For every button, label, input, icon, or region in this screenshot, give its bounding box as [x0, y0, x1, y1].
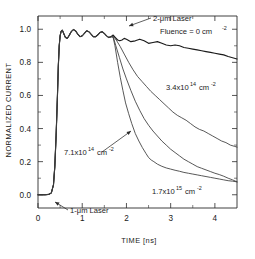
- fluence-zero-exponent: -2: [222, 25, 227, 31]
- fluence-3p4e14-exponent: 14: [190, 81, 196, 87]
- two-um-laser-label: 2-μm Laser: [153, 14, 192, 23]
- fluence-1p7e15-exponent: 15: [176, 185, 182, 191]
- y-axis-tick-label: 0.2: [20, 158, 32, 167]
- fluence-1p7e15-mantissa: 1.7x10: [152, 187, 175, 196]
- y-axis-tick-label: 0.6: [20, 91, 32, 100]
- one-um-laser-label: 1-μm Laser: [70, 206, 109, 215]
- x-axis-tick-label: 1: [80, 214, 85, 223]
- annotation-one-um-laser: 1-μm Laser: [70, 206, 109, 215]
- x-axis-tick-label: 2: [124, 214, 129, 223]
- y-axis-tick-label: 0.4: [20, 125, 32, 134]
- fluence-7p1e14-exponent: 14: [88, 146, 94, 152]
- fluence-3p4e14-unit-exponent: -2: [211, 81, 216, 87]
- data-curves: [38, 30, 237, 195]
- x-axis-tick-label: 4: [213, 214, 218, 223]
- annotation-fluence-zero: Fluence = 0 cm -2: [160, 25, 227, 36]
- annotation-two-um-laser: 2-μm Laser: [153, 14, 192, 23]
- y-axis-tick-label: 0.0: [20, 191, 32, 200]
- data-curve: [38, 30, 237, 195]
- annotation-fluence-1p7e15: 1.7x10 15 cm -2: [152, 185, 202, 196]
- one-um-laser-leader-arrowhead: [55, 202, 60, 206]
- x-axis-title: TIME [ns]: [121, 236, 157, 245]
- x-axis-tick-label: 0: [36, 214, 41, 223]
- fluence-3p4e14-mantissa: 3.4x10: [166, 83, 189, 92]
- annotation-fluence-3p4e14: 3.4x10 14 cm -2: [166, 81, 216, 92]
- figure-panel: 012340.00.20.40.60.81.0 NORMALIZED CURRE…: [0, 0, 255, 259]
- y-axis-title-text: NORMALIZED CURRENT: [4, 63, 13, 158]
- annotation-fluence-7p1e14: 7.1x10 14 cm -2: [64, 146, 114, 157]
- y-axis-tick-label: 0.8: [20, 58, 32, 67]
- fluence-7p1e14-mantissa: 7.1x10: [64, 148, 87, 157]
- axes: 012340.00.20.40.60.81.0: [20, 16, 237, 223]
- x-axis-tick-label: 3: [168, 214, 173, 223]
- fluence-3p4e14-unit: cm: [199, 83, 209, 92]
- fluence-7p1e14-leader-arrowhead: [126, 131, 131, 135]
- fluence-1p7e15-unit: cm: [185, 187, 195, 196]
- y-axis-tick-label: 1.0: [20, 25, 32, 34]
- fluence-7p1e14-unit-exponent: -2: [109, 146, 114, 152]
- annotation-leaders: [55, 18, 151, 210]
- fluence-zero-label: Fluence = 0 cm: [160, 27, 212, 36]
- fluence-1p7e15-unit-exponent: -2: [197, 185, 202, 191]
- x-axis-title-text: TIME [ns]: [121, 236, 157, 245]
- fluence-7p1e14-unit: cm: [97, 148, 107, 157]
- y-axis-title: NORMALIZED CURRENT: [4, 63, 13, 158]
- normalized-current-vs-time-chart: 012340.00.20.40.60.81.0 NORMALIZED CURRE…: [0, 0, 255, 259]
- two-um-laser-leader-arrowhead: [129, 23, 134, 27]
